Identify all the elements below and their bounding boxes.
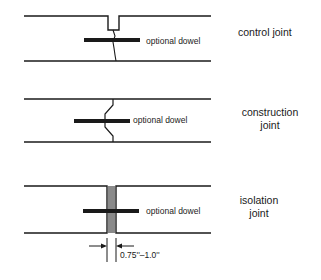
gap-dimension-label: 0.75''–1.0'' xyxy=(120,250,160,260)
isolation-joint-title: isolation joint xyxy=(234,194,284,220)
control-joint-title: control joint xyxy=(238,26,292,39)
construction-joint-title: construction joint xyxy=(236,106,304,132)
control-joint-dowel-label: optional dowel xyxy=(146,36,200,46)
construction-joint-title-line2: joint xyxy=(236,119,304,132)
isolation-joint-title-line1: isolation xyxy=(234,194,284,207)
construction-joint-dowel xyxy=(74,119,130,123)
control-joint-dowel xyxy=(84,38,140,42)
isolation-joint-dowel xyxy=(83,209,139,213)
dimension-arrowhead-right xyxy=(116,244,122,249)
control-joint-slab-top xyxy=(24,16,211,30)
isolation-joint-title-line2: joint xyxy=(234,207,284,220)
construction-joint-title-line1: construction xyxy=(236,106,304,119)
isolation-joint-figure xyxy=(24,186,211,262)
construction-joint-dowel-label: optional dowel xyxy=(133,115,187,125)
isolation-joint-dowel-label: optional dowel xyxy=(146,206,200,216)
control-joint-crack xyxy=(113,30,116,61)
dimension-arrowhead-left xyxy=(101,244,107,249)
